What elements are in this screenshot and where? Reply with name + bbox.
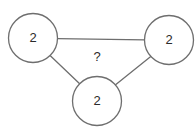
- diagram-canvas: 2 2 2 ?: [0, 0, 195, 131]
- triangle-node-diagram: 2 2 2 ?: [0, 0, 195, 131]
- edge-right-to-bottom: [114, 56, 152, 87]
- node-label-bottom: 2: [93, 93, 100, 108]
- node-label-left: 2: [29, 30, 36, 45]
- edge-left-to-right: [58, 39, 145, 40]
- node-label-right: 2: [165, 32, 172, 47]
- edge-left-to-bottom: [49, 54, 82, 86]
- center-question-mark: ?: [93, 49, 100, 64]
